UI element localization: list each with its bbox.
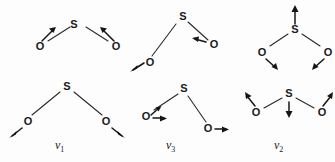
bond-s-o-left bbox=[152, 24, 176, 56]
arrow-oxygen-right-up-left bbox=[100, 27, 114, 41]
arrow-sulfur-down bbox=[286, 102, 293, 118]
bond-s-o-right bbox=[74, 92, 102, 115]
nu-subscript: 2 bbox=[279, 145, 283, 154]
atom-sulfur: S bbox=[291, 23, 298, 35]
atom-oxygen-left: O bbox=[24, 115, 33, 127]
arrow-oxygen-right-up-right bbox=[323, 92, 333, 106]
atom-oxygen-left: O bbox=[258, 46, 267, 58]
atom-sulfur: S bbox=[180, 82, 187, 94]
arrow-oxygen-right-left bbox=[192, 37, 206, 43]
atom-oxygen-left: O bbox=[36, 40, 45, 52]
bond-s-o-right bbox=[296, 98, 314, 108]
panel-bottom-middle: S O O bbox=[132, 80, 237, 138]
atom-sulfur: S bbox=[285, 87, 292, 99]
panel-top-left: S O O bbox=[18, 8, 128, 58]
atom-oxygen-right: O bbox=[318, 106, 327, 118]
mode-caption-nu2: ν2 bbox=[274, 138, 283, 154]
arrow-oxygen-left-down-right bbox=[266, 59, 278, 70]
arrow-oxygen-left-down-left bbox=[9, 128, 22, 138]
nu-subscript: 1 bbox=[60, 145, 64, 154]
atom-oxygen-right: O bbox=[204, 122, 213, 134]
mode-caption-nu3: ν3 bbox=[166, 138, 175, 154]
panel-bottom-right: S O O bbox=[240, 84, 335, 132]
bond-s-o-right bbox=[302, 34, 320, 46]
arrow-oxygen-right-down-left bbox=[312, 59, 324, 70]
atom-sulfur: S bbox=[179, 10, 186, 22]
atom-oxygen-left: O bbox=[252, 106, 261, 118]
atom-oxygen-right: O bbox=[210, 38, 219, 50]
panel-top-middle: S O O bbox=[128, 6, 233, 72]
so2-vibrational-modes-figure: S O O S O O bbox=[0, 0, 335, 162]
bond-s-o-left bbox=[264, 98, 282, 108]
arrow-oxygen-left-down-left bbox=[130, 63, 144, 72]
bond-s-o-left bbox=[32, 92, 60, 115]
arrow-oxygen-left-up-left bbox=[245, 92, 255, 106]
atom-oxygen-right: O bbox=[324, 46, 333, 58]
bond-s-o-right bbox=[188, 96, 206, 122]
arrow-oxygen-left-up-right bbox=[42, 27, 56, 41]
arrow-oxygen-right-down-right bbox=[112, 128, 125, 138]
arrow-oxygen-left-right bbox=[153, 116, 167, 122]
arrow-oxygen-right-right bbox=[215, 127, 229, 133]
panel-top-right: S O O bbox=[244, 4, 335, 70]
nu-subscript: 3 bbox=[171, 145, 175, 154]
atom-oxygen-right: O bbox=[112, 40, 121, 52]
panel-bottom-left: S O O bbox=[8, 78, 128, 138]
atom-sulfur: S bbox=[63, 80, 70, 92]
arrow-sulfur-up bbox=[292, 5, 299, 24]
atom-oxygen-left: O bbox=[142, 110, 151, 122]
arrow-oxygen-left-up-right bbox=[151, 106, 162, 115]
atom-oxygen-right: O bbox=[102, 115, 111, 127]
atom-oxygen-left: O bbox=[146, 56, 155, 68]
mode-caption-nu1: ν1 bbox=[55, 138, 64, 154]
atom-sulfur: S bbox=[70, 18, 77, 30]
bond-s-o-left bbox=[270, 34, 288, 46]
